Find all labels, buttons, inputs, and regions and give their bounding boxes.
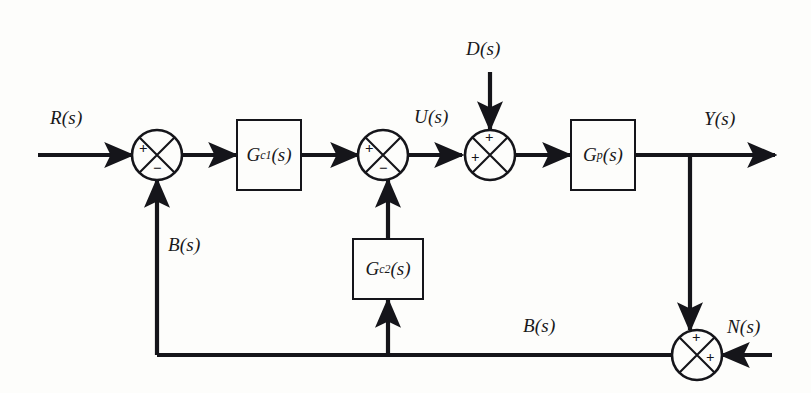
label-control-signal: U(s) (414, 106, 449, 128)
block-gc2[interactable]: Gc2(s) (352, 238, 424, 300)
block-gp[interactable]: Gp(s) (570, 119, 636, 191)
sum3-sign-left: + (471, 150, 480, 165)
label-feedback-inner: B(s) (168, 234, 200, 256)
label-reference-signal: R(s) (50, 107, 82, 129)
block-gc1[interactable]: Gc1(s) (236, 119, 302, 191)
sum4-sign-top: + (692, 330, 701, 345)
sum1-sign-bottom: − (153, 161, 162, 176)
label-noise-signal: N(s) (727, 316, 761, 338)
block-gc1-label: Gc1(s) (238, 121, 300, 189)
block-gp-label: Gp(s) (572, 121, 634, 189)
label-feedback-outer: B(s) (523, 315, 555, 337)
sum4-sign-right: + (706, 350, 715, 365)
label-disturbance-signal: D(s) (466, 38, 501, 60)
block-diagram-canvas: Gc1(s) Gc2(s) Gp(s) R(s) U(s) D(s) Y(s) … (0, 0, 811, 393)
block-gc2-label: Gc2(s) (354, 240, 422, 298)
label-output-signal: Y(s) (704, 108, 735, 130)
sum3-sign-top: + (485, 130, 494, 145)
sum2-sign-left: + (365, 141, 374, 156)
sum1-sign-left: + (139, 141, 148, 156)
sum2-sign-bottom: − (379, 161, 388, 176)
diagram-wires (0, 0, 811, 393)
